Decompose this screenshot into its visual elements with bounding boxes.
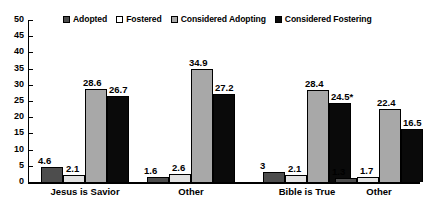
y-tick-label: 5 — [2, 161, 24, 170]
bar-column[interactable]: 1.6 — [147, 20, 169, 182]
bar-chart: Adopted Fostered Considered Adopting Con… — [0, 0, 426, 209]
y-tick-label: 25 — [2, 96, 24, 105]
bar-group: 1.31.722.416.5 — [329, 20, 426, 182]
bar-value-label: 3 — [260, 161, 265, 171]
bar-column[interactable]: 2.1 — [63, 20, 85, 182]
bar[interactable] — [85, 89, 107, 182]
bar-value-label: 28.4 — [305, 79, 324, 89]
bar-group-bars: 1.62.634.927.2 — [141, 20, 241, 182]
bar[interactable] — [263, 172, 285, 182]
y-tick-label: 10 — [2, 145, 24, 154]
bar-column[interactable]: 3 — [263, 20, 285, 182]
bar[interactable] — [285, 175, 307, 182]
bar[interactable] — [335, 178, 357, 182]
bar-value-label: 1.3 — [332, 167, 345, 177]
bar-column[interactable]: 4.6 — [41, 20, 63, 182]
y-tick-label: 30 — [2, 80, 24, 89]
bar-column[interactable]: 28.6 — [85, 20, 107, 182]
bar-value-label: 4.6 — [38, 156, 51, 166]
bar-column[interactable]: 2.6 — [169, 20, 191, 182]
x-axis-group-label: Jesus is Savior — [35, 186, 135, 197]
bar-column[interactable]: 28.4 — [307, 20, 329, 182]
bar-value-label: 2.1 — [66, 164, 79, 174]
bar-value-label: 2.1 — [288, 164, 301, 174]
y-tick-label: 15 — [2, 128, 24, 137]
y-tick-label: 0 — [2, 177, 24, 186]
bar-group: 4.62.128.626.7 — [35, 20, 135, 182]
y-tick-mark — [28, 182, 33, 183]
x-axis-group-label: Other — [141, 186, 241, 197]
bar-value-label: 26.7 — [109, 85, 128, 95]
bar[interactable] — [307, 90, 329, 182]
bar-value-label: 34.9 — [189, 58, 208, 68]
x-axis-line — [28, 182, 420, 184]
bar[interactable] — [357, 177, 379, 183]
bar-column[interactable]: 27.2 — [213, 20, 235, 182]
bar-value-label: 27.2 — [215, 83, 234, 93]
bar[interactable] — [379, 109, 401, 182]
bar-column[interactable]: 1.7 — [357, 20, 379, 182]
bar-value-label: 1.7 — [360, 166, 373, 176]
bar[interactable] — [401, 129, 423, 182]
x-axis-group-label: Other — [329, 186, 426, 197]
y-tick-label: 45 — [2, 31, 24, 40]
plot-area: 4.62.128.626.71.62.634.927.232.128.424.5… — [29, 20, 420, 182]
bar[interactable] — [107, 96, 129, 183]
bar-column[interactable]: 2.1 — [285, 20, 307, 182]
y-tick-label: 35 — [2, 64, 24, 73]
bar-value-label: 1.6 — [144, 166, 157, 176]
bar-column[interactable]: 34.9 — [191, 20, 213, 182]
bar-value-label: 16.5 — [403, 118, 422, 128]
bar-column[interactable]: 16.5 — [401, 20, 423, 182]
bar-group-bars: 1.31.722.416.5 — [329, 20, 426, 182]
bar[interactable] — [63, 175, 85, 182]
y-tick-label: 50 — [2, 15, 24, 24]
bar-group: 1.62.634.927.2 — [141, 20, 241, 182]
y-tick-label: 40 — [2, 47, 24, 56]
bar-value-label: 22.4 — [377, 98, 396, 108]
bar[interactable] — [191, 69, 213, 182]
bar[interactable] — [169, 174, 191, 182]
bar[interactable] — [147, 177, 169, 182]
bar[interactable] — [41, 167, 63, 182]
bar-column[interactable]: 1.3 — [335, 20, 357, 182]
y-tick-label: 20 — [2, 112, 24, 121]
bar-value-label: 28.6 — [83, 78, 102, 88]
bar-column[interactable]: 26.7 — [107, 20, 129, 182]
bar-value-label: 2.6 — [172, 163, 185, 173]
bar[interactable] — [213, 94, 235, 182]
bar-group-bars: 4.62.128.626.7 — [35, 20, 135, 182]
bar-column[interactable]: 22.4 — [379, 20, 401, 182]
